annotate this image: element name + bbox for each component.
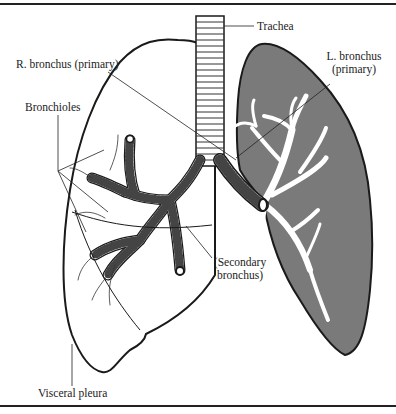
label-bronchioles: Bronchioles (25, 101, 81, 114)
label-r-bronchus: R. bronchus (primary) (16, 58, 119, 71)
label-secondary-line2: bronchus) (206, 269, 274, 282)
right-lung-outline (64, 39, 216, 372)
label-l-bronchus-line2: (primary) (324, 63, 384, 76)
label-secondary-bronchus: (Secondary bronchus) (206, 256, 274, 282)
label-trachea: Trachea (257, 20, 294, 33)
label-l-bronchus: L. bronchus (primary) (324, 50, 384, 76)
label-secondary-line1: (Secondary (206, 256, 274, 269)
label-l-bronchus-line1: L. bronchus (324, 50, 384, 63)
trachea (196, 16, 224, 166)
label-visceral-pleura: Visceral pleura (38, 387, 107, 400)
